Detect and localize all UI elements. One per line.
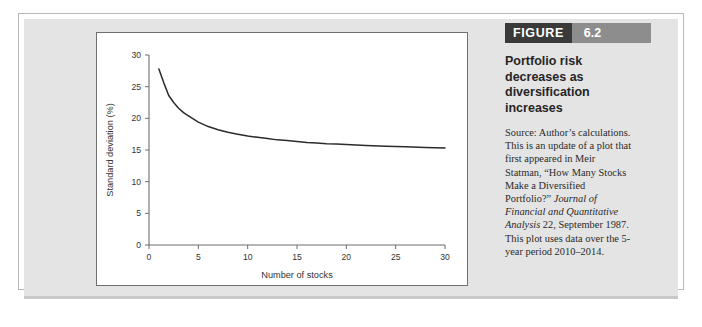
figure-banner-word: FIGURE — [505, 23, 572, 43]
y-axis-ticks: 051015202530 — [131, 50, 149, 250]
chart-plot-box: 051015202530 051015202530 Standard devia… — [96, 32, 468, 286]
figure-banner: FIGURE 6.2 — [505, 23, 651, 43]
y-tick-label: 20 — [131, 113, 141, 123]
y-axis-label: Standard deviation (%) — [105, 103, 115, 196]
x-tick-label: 0 — [147, 252, 152, 262]
x-axis-ticks: 051015202530 — [147, 245, 450, 262]
figure-source-note: Source: Author’s calculations. This is a… — [505, 126, 633, 258]
risk-curve — [159, 69, 445, 148]
caption-column: FIGURE 6.2 Portfolio risk decreases as d… — [505, 23, 657, 258]
y-tick-label: 30 — [131, 50, 141, 60]
x-tick-label: 20 — [342, 252, 352, 262]
x-axis-label: Number of stocks — [261, 270, 333, 280]
x-tick-label: 30 — [440, 252, 450, 262]
x-tick-label: 10 — [243, 252, 253, 262]
figure-panel-shadow — [24, 296, 678, 299]
x-tick-label: 25 — [391, 252, 401, 262]
figure-banner-number: 6.2 — [572, 23, 651, 43]
x-tick-label: 5 — [196, 252, 201, 262]
y-tick-label: 10 — [131, 177, 141, 187]
x-tick-label: 15 — [292, 252, 302, 262]
y-tick-label: 5 — [136, 208, 141, 218]
diversification-line-chart: 051015202530 051015202530 Standard devia… — [97, 33, 467, 285]
figure-title: Portfolio risk decreases as diversificat… — [505, 54, 623, 116]
y-tick-label: 0 — [136, 240, 141, 250]
y-tick-label: 25 — [131, 82, 141, 92]
figure-container: 051015202530 051015202530 Standard devia… — [18, 13, 684, 307]
y-tick-label: 15 — [131, 145, 141, 155]
